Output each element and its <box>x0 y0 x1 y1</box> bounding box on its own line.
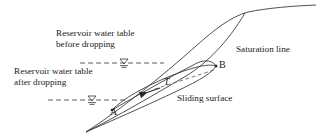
saturation-line-label: Saturation line <box>236 44 290 55</box>
ground-surface-curve <box>86 5 316 132</box>
force-t-label: T <box>164 77 169 88</box>
water-table-after-line2: after dropping <box>14 77 66 87</box>
sliding-surface-label: Sliding surface <box>177 93 232 104</box>
point-b-label: B <box>219 59 226 71</box>
water-table-before-label: Reservoir water tablebefore dropping <box>56 28 135 50</box>
point-b-marker <box>215 65 218 68</box>
water-table-after-label: Reservoir water tableafter dropping <box>14 66 93 88</box>
water-table-before-line1: Reservoir water table <box>56 28 135 38</box>
point-a-label: A <box>110 106 117 118</box>
water-table-after-line1: Reservoir water table <box>14 66 93 76</box>
slope-stability-diagram: Reservoir water tablebefore dropping Res… <box>0 0 317 137</box>
water-table-before-line2: before dropping <box>56 39 115 49</box>
